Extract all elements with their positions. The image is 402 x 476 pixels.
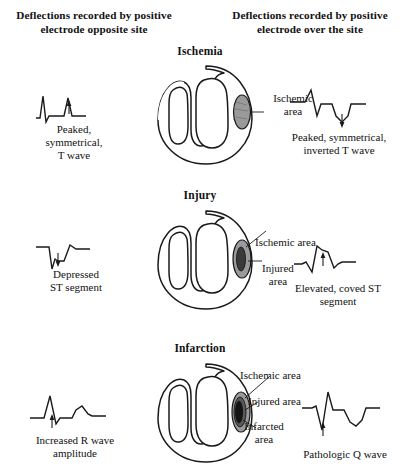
label-injured-area-3: Injured area	[248, 395, 301, 408]
ecg-trace-peaked-t-wave	[34, 88, 120, 128]
caption-pathologic-q-wave: Pathologic Q wave	[288, 448, 402, 461]
caption-peaked-t-wave: Peaked, symmetrical, T wave	[18, 123, 130, 162]
column-header-left: Deflections recorded by positive electro…	[6, 8, 182, 37]
label-ischemic-area-3: Ischemic area	[240, 369, 301, 382]
diagram-canvas: Deflections recorded by positive electro…	[0, 0, 402, 476]
caption-inverted-t-wave: Peaked, symmetrical, inverted T wave	[276, 131, 402, 157]
ecg-trace-increased-r-wave	[28, 392, 128, 436]
caption-depressed-st: Depressed ST segment	[18, 268, 134, 294]
section-title-infarction: Infarction	[145, 342, 255, 354]
caption-line-1: Depressed	[18, 268, 134, 281]
column-header-right: Deflections recorded by positive electro…	[222, 8, 398, 37]
label-line-2: area	[228, 433, 300, 446]
label-infarcted-area-3: Infarcted area	[228, 420, 300, 446]
caption-line-3: T wave	[18, 149, 130, 162]
caption-line-2: amplitude	[8, 447, 142, 460]
caption-line-2: ST segment	[18, 281, 134, 294]
ecg-trace-inverted-t-wave	[288, 86, 384, 130]
caption-line-2: inverted T wave	[276, 144, 402, 157]
caption-line-1: Elevated, coved ST	[276, 282, 400, 295]
caption-line-1: Increased R wave	[8, 434, 142, 447]
section-title-ischemia: Ischemia	[140, 45, 260, 57]
caption-line-1: Peaked, symmetrical,	[276, 131, 402, 144]
label-line-1: Infarcted	[228, 420, 300, 433]
caption-elevated-coved-st: Elevated, coved ST segment	[276, 282, 400, 308]
caption-line-1: Peaked,	[18, 123, 130, 136]
section-title-injury: Injury	[145, 189, 255, 201]
ecg-trace-pathologic-q-wave	[300, 390, 396, 440]
caption-line-2: segment	[276, 295, 400, 308]
injured-area-shape	[237, 247, 246, 271]
caption-line-2: symmetrical,	[18, 136, 130, 149]
caption-increased-r-wave: Increased R wave amplitude	[8, 434, 142, 460]
ecg-trace-elevated-coved-st	[292, 238, 384, 280]
